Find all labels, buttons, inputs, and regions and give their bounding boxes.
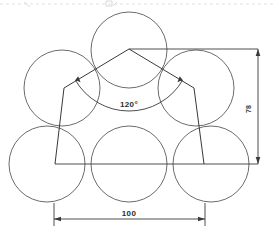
- height-dimension-label: 78: [245, 105, 252, 113]
- height-arrow-top: [256, 49, 261, 56]
- width-arrow-right: [198, 217, 205, 222]
- angle-dimension-label: 120°: [120, 100, 138, 109]
- technical-drawing-svg: 120° 78 100: [0, 0, 273, 236]
- middle-right-circle: [158, 50, 234, 126]
- width-dimension-label: 100: [122, 209, 137, 218]
- height-arrow-bottom: [256, 157, 261, 164]
- top-circle: [91, 12, 167, 88]
- drawing-canvas: 120° 78 100: [0, 0, 273, 236]
- crop-artifact-dashes: [0, 1, 273, 7]
- width-arrow-left: [54, 217, 61, 222]
- middle-left-circle: [24, 50, 100, 126]
- height-dimension-group: [256, 49, 261, 164]
